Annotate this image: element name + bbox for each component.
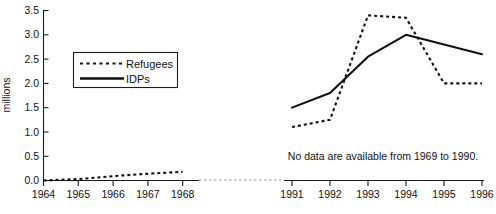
y-tick-label-1-5: 1.5 [24, 101, 39, 113]
chart-legend: Refugees IDPs [74, 53, 178, 88]
x-tick-label-1966: 1966 [101, 188, 125, 200]
y-tick-label-3-0: 3.0 [24, 28, 39, 40]
y-tick-label-0-0: 0.0 [24, 174, 39, 186]
line-chart-plot: 3.5 3.0 2.5 2.0 1.5 1.0 0.5 0.0 millions… [0, 0, 496, 214]
series-refugees-segment-left [44, 172, 183, 181]
no-data-annotation: No data are available from 1969 to 1990. [288, 150, 478, 162]
x-tick-label-1968: 1968 [171, 188, 195, 200]
x-tick-label-1992: 1992 [318, 188, 342, 200]
x-tick-marks-right [292, 181, 482, 187]
y-tick-label-0-5: 0.5 [24, 150, 39, 162]
chart-container: 3.5 3.0 2.5 2.0 1.5 1.0 0.5 0.0 millions… [0, 0, 496, 214]
x-tick-marks-left [44, 181, 183, 187]
y-tick-label-2-5: 2.5 [24, 53, 39, 65]
legend-label-refugees: Refugees [126, 58, 174, 70]
y-tick-label-3-5: 3.5 [24, 4, 39, 16]
y-axis-title: millions [0, 77, 12, 112]
x-tick-label-1996: 1996 [470, 188, 494, 200]
y-tick-label-1-0: 1.0 [24, 126, 39, 138]
x-tick-label-1993: 1993 [356, 188, 380, 200]
series-idps-segment-right [292, 35, 482, 108]
y-tick-label-2-0: 2.0 [24, 77, 39, 89]
x-tick-label-1965: 1965 [67, 188, 91, 200]
x-tick-label-1991: 1991 [280, 188, 304, 200]
legend-label-idps: IDPs [126, 73, 150, 85]
x-tick-label-1967: 1967 [136, 188, 160, 200]
x-tick-label-1994: 1994 [394, 188, 418, 200]
series-refugees-segment-right [292, 15, 482, 127]
y-tick-marks [44, 11, 49, 181]
x-tick-label-1995: 1995 [432, 188, 456, 200]
x-tick-label-1964: 1964 [32, 188, 56, 200]
